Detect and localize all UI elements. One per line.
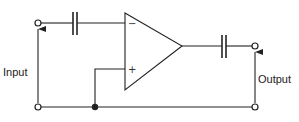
non-inverting-input-sign: + <box>128 64 136 75</box>
input-terminal-top <box>35 20 41 26</box>
output-label: Output <box>258 73 291 85</box>
inverting-input-sign: − <box>128 18 136 29</box>
circuit-diagram: − + Input Output <box>0 0 299 122</box>
output-capacitor <box>222 35 226 58</box>
output-terminal-top <box>252 43 258 49</box>
op-amp: − + <box>125 13 182 90</box>
input-terminal-bottom <box>35 104 41 110</box>
non-inverting-wire <box>95 69 125 107</box>
output-terminal-bottom <box>252 104 258 110</box>
ground-junction <box>92 104 98 110</box>
input-label: Input <box>3 66 27 78</box>
input-capacitor <box>73 12 77 35</box>
